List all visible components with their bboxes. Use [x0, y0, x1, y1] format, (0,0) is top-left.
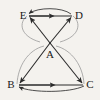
- graph-canvas: E D A B C: [0, 0, 100, 100]
- node-label-c: C: [86, 79, 93, 90]
- node-label-e: E: [20, 10, 27, 21]
- node-label-b: B: [7, 79, 14, 90]
- node-label-d: D: [75, 10, 83, 21]
- vertex-a-point: [49, 42, 51, 44]
- edge-c-to-b: [19, 86, 84, 91]
- edge-a-to-c: [50, 43, 82, 83]
- node-label-a: A: [46, 49, 54, 60]
- edge-d-to-e: [29, 9, 71, 14]
